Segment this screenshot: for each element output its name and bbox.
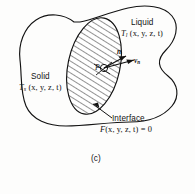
liquid-temperature-label: Tl (x, y, z, t) — [121, 30, 163, 39]
interface-equation-label: F(x, y, z, t) = 0 — [100, 126, 152, 135]
normal-velocity-label: vn — [134, 58, 140, 66]
solid-temp-args: (x, y, z, t) — [28, 83, 61, 92]
normal-velocity-subscript: n — [137, 59, 140, 65]
liquid-temp-args: (x, y, z, t) — [130, 29, 163, 38]
point-p-label: P — [95, 64, 100, 72]
solid-temp-subscript: s — [24, 86, 26, 92]
normal-vector-label: n — [117, 49, 121, 57]
interface-label: Interface — [112, 115, 145, 124]
liquid-region-label: Liquid — [131, 19, 153, 28]
solid-region-label: Solid — [31, 73, 50, 82]
subfigure-caption: (c) — [91, 155, 101, 164]
interface-eq-rhs: = 0 — [141, 125, 152, 134]
liquid-temp-subscript: l — [126, 32, 128, 38]
solid-liquid-interface-diagram — [0, 0, 195, 194]
figure-container: Liquid Tl (x, y, z, t) Solid Ts (x, y, z… — [0, 0, 195, 194]
interface-eq-args: (x, y, z, t) — [105, 125, 138, 134]
solid-temperature-label: Ts (x, y, z, t) — [19, 84, 62, 93]
